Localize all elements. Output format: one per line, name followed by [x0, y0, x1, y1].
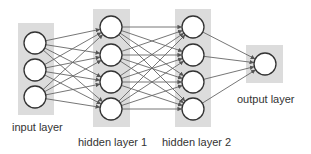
- hidden-layer-1-label: hidden layer 1: [78, 136, 147, 148]
- output-node: [254, 53, 276, 75]
- hidden-layer-2-label: hidden layer 2: [162, 136, 231, 148]
- hidden1-node: [100, 44, 122, 66]
- hidden2-node: [182, 98, 204, 120]
- hidden2-node: [182, 44, 204, 66]
- hidden2-node: [182, 16, 204, 38]
- input-layer-label: input layer: [12, 121, 63, 133]
- hidden1-node: [100, 98, 122, 120]
- output-layer-label: output layer: [237, 93, 295, 105]
- input-node: [24, 86, 46, 108]
- connections: [43, 27, 255, 109]
- layer-labels: input layer hidden layer 1 hidden layer …: [12, 93, 295, 148]
- neural-network-diagram: input layer hidden layer 1 hidden layer …: [0, 0, 311, 154]
- hidden1-node: [100, 16, 122, 38]
- hidden2-node: [182, 71, 204, 93]
- hidden1-node: [100, 71, 122, 93]
- input-node: [24, 32, 46, 54]
- input-node: [24, 59, 46, 81]
